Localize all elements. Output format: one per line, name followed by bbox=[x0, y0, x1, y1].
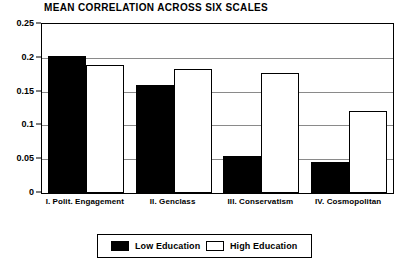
bar-high-education bbox=[349, 111, 387, 193]
x-axis-tick-label: III. Conservatism bbox=[228, 197, 294, 206]
y-axis-tick-label: 0.2 bbox=[21, 52, 34, 62]
legend-entry-high-education: High Education bbox=[206, 240, 297, 252]
bar-low-education bbox=[48, 56, 86, 193]
plot-area bbox=[41, 23, 394, 194]
gridline bbox=[42, 58, 393, 59]
legend-entry-low-education: Low Education bbox=[111, 240, 200, 252]
y-axis: 00.050.10.150.20.25 bbox=[0, 23, 41, 194]
y-axis-tick-label: 0.25 bbox=[16, 18, 34, 28]
chart-title: MEAN CORRELATION ACROSS SIX SCALES bbox=[44, 2, 268, 14]
y-axis-tick-label: 0.1 bbox=[21, 119, 34, 129]
chart-legend: Low Education High Education bbox=[97, 234, 312, 258]
y-axis-tick-label: 0.05 bbox=[16, 153, 34, 163]
y-axis-tick-label: 0 bbox=[29, 187, 34, 197]
bar-low-education bbox=[136, 85, 174, 193]
x-axis-tick-label: II. Genclass bbox=[150, 197, 196, 206]
bar-chart-figure: MEAN CORRELATION ACROSS SIX SCALES 00.05… bbox=[0, 0, 408, 270]
bar-low-education bbox=[311, 162, 349, 193]
bar-high-education bbox=[261, 73, 299, 193]
bar-high-education bbox=[174, 69, 212, 193]
y-axis-tick-label: 0.15 bbox=[16, 86, 34, 96]
x-axis-tick-label: I. Polit. Engagement bbox=[46, 197, 124, 206]
legend-label-high-education: High Education bbox=[230, 241, 297, 251]
bar-low-education bbox=[223, 156, 261, 193]
bar-high-education bbox=[86, 65, 124, 193]
legend-label-low-education: Low Education bbox=[135, 241, 200, 251]
legend-swatch-low-education-icon bbox=[111, 241, 129, 251]
legend-swatch-high-education-icon bbox=[206, 241, 224, 251]
x-axis-tick-label: IV. Cosmopolitan bbox=[315, 197, 381, 206]
x-axis: I. Polit. EngagementII. GenclassIII. Con… bbox=[41, 197, 394, 211]
